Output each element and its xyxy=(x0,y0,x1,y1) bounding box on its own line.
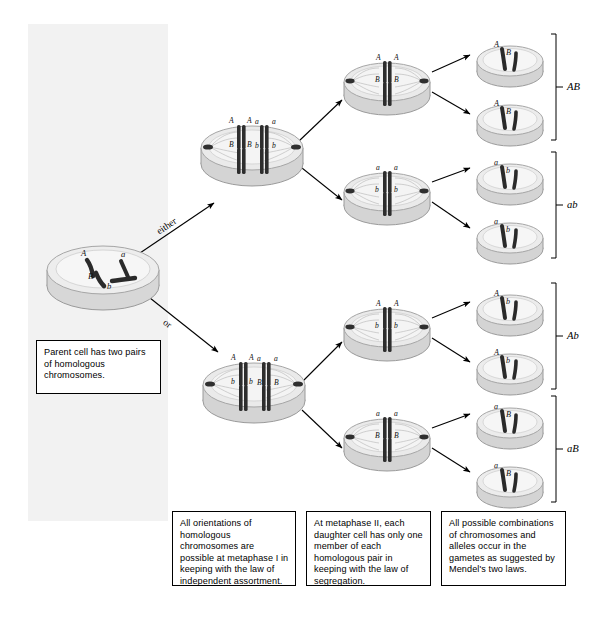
mii-4-bottom-allele-2: B xyxy=(394,432,399,440)
parent-allele-A: A xyxy=(81,249,86,258)
mi-lower-bottom-allele-1: b xyxy=(231,378,235,386)
gamete-3-allele-2: b xyxy=(506,167,510,175)
gamete-cell-1: A B xyxy=(474,34,546,92)
mi-lower-top-allele-4: a xyxy=(274,355,278,363)
gamete-6-allele-1: A xyxy=(494,349,499,357)
arrow-mii-1-to-gamete-2 xyxy=(432,92,470,114)
arrow-mii-4-to-gamete-8 xyxy=(432,448,470,472)
mii-3-top-allele-1: A xyxy=(376,300,381,308)
mii-3-bottom-allele-1: b xyxy=(375,322,379,330)
gamete-5-allele-1: A xyxy=(494,290,499,298)
arrow-mii-3-to-gamete-6 xyxy=(432,338,470,362)
mii-1-bottom-allele-2: B xyxy=(394,76,399,84)
gamete-group-label-ab: ab xyxy=(567,200,578,211)
mi-upper-top-allele-2: A xyxy=(247,117,252,125)
arrow-mi-upper-to-mii-2 xyxy=(302,168,342,200)
mii-2-top-allele-2: a xyxy=(394,164,398,172)
mi-upper-bottom-allele-1: B xyxy=(229,141,234,149)
metaphase-two-cell-2: a a b b xyxy=(341,156,433,232)
mi-upper-bottom-allele-3: b xyxy=(255,142,259,150)
gamete-5-allele-2: b xyxy=(506,298,510,306)
mii-2-top-allele-1: a xyxy=(376,164,380,172)
mi-lower-top-allele-3: a xyxy=(257,355,261,363)
gamete-2-allele-2: B xyxy=(506,108,511,116)
bracket-ab xyxy=(551,152,556,258)
parent-cell-caption: Parent cell has two pairs of homologous … xyxy=(36,340,161,394)
gamete-8-allele-2: B xyxy=(506,470,511,478)
arrow-mii-3-to-gamete-5 xyxy=(432,302,470,318)
mi-lower-top-allele-1: A xyxy=(231,354,236,362)
parent-allele-a: a xyxy=(121,250,125,259)
gamete-6-allele-2: b xyxy=(506,357,510,365)
gamete-cell-2: A B xyxy=(474,93,546,151)
gamete-cell-5: A b xyxy=(474,283,546,341)
mi-upper-top-allele-4: a xyxy=(272,118,276,126)
arrow-mii-2-to-gamete-4 xyxy=(432,202,470,228)
gamete-8-allele-1: a xyxy=(494,462,498,470)
gamete-cell-8: a B xyxy=(474,455,546,513)
metaphase-one-cell-lower: A A a a b b B B xyxy=(200,345,308,433)
arrow-mi-lower-to-mii-4 xyxy=(302,410,342,448)
mii-4-bottom-allele-1: B xyxy=(375,432,380,440)
gamete-cell-6: A b xyxy=(474,342,546,400)
bracket-aB xyxy=(551,396,556,502)
mi-upper-bottom-allele-4: b xyxy=(272,142,276,150)
gamete-7-allele-2: B xyxy=(506,411,511,419)
arrow-mi-lower-to-mii-3 xyxy=(302,342,342,382)
mii-1-bottom-allele-1: B xyxy=(375,76,380,84)
metaphase-two-cell-1: A A B B xyxy=(341,46,433,122)
gamete-cell-3: a b xyxy=(474,152,546,210)
gamete-3-allele-1: a xyxy=(494,159,498,167)
mii-3-top-allele-2: A xyxy=(394,300,399,308)
gamete-1-allele-1: A xyxy=(494,41,499,49)
metaphase-two-cell-3: A A b b xyxy=(341,292,433,368)
metaphase-one-caption: All orientations of homologous chromosom… xyxy=(172,511,296,586)
mi-lower-bottom-allele-3: B xyxy=(257,379,262,387)
gamete-cell-4: a b xyxy=(474,211,546,269)
metaphase-two-caption: At metaphase II, each daughter cell has … xyxy=(306,511,431,586)
mii-4-top-allele-2: a xyxy=(394,410,398,418)
gamete-4-allele-2: b xyxy=(506,226,510,234)
mi-lower-bottom-allele-2: b xyxy=(249,378,253,386)
gamete-group-label-aB: aB xyxy=(567,444,579,455)
mi-upper-bottom-allele-2: B xyxy=(247,141,252,149)
parent-cell: A a B b xyxy=(43,236,163,318)
mii-2-bottom-allele-2: b xyxy=(394,186,398,194)
mii-1-top-allele-1: A xyxy=(376,54,381,62)
figure-canvas: A a B b either or xyxy=(0,0,597,629)
mii-1-top-allele-2: A xyxy=(394,54,399,62)
mii-3-bottom-allele-2: b xyxy=(394,322,398,330)
gamete-2-allele-1: A xyxy=(494,100,499,108)
arrow-mii-2-to-gamete-3 xyxy=(432,168,470,182)
gamete-4-allele-1: a xyxy=(494,218,498,226)
parent-allele-B: B xyxy=(88,272,93,281)
arrow-mii-1-to-gamete-1 xyxy=(432,55,470,72)
metaphase-one-cell-upper: A A a a B B b b xyxy=(198,108,306,196)
mii-4-top-allele-1: a xyxy=(376,410,380,418)
gametes-caption: All possible combinations of chromosomes… xyxy=(441,511,566,586)
mi-lower-bottom-allele-4: B xyxy=(274,379,279,387)
mi-upper-top-allele-3: a xyxy=(255,118,259,126)
gamete-group-label-Ab: Ab xyxy=(567,331,579,342)
mi-lower-top-allele-2: A xyxy=(249,354,254,362)
bracket-AB xyxy=(551,34,556,140)
gamete-group-label-AB: AB xyxy=(567,82,580,93)
mii-2-bottom-allele-1: b xyxy=(375,186,379,194)
arrow-mii-4-to-gamete-7 xyxy=(432,414,470,428)
metaphase-two-cell-4: a a B B xyxy=(341,402,433,478)
gamete-cell-7: a B xyxy=(474,396,546,454)
gamete-7-allele-1: a xyxy=(494,403,498,411)
mi-upper-top-allele-1: A xyxy=(229,117,234,125)
gamete-1-allele-2: B xyxy=(506,49,511,57)
parent-allele-b: b xyxy=(107,282,111,291)
bracket-Ab xyxy=(551,283,556,389)
